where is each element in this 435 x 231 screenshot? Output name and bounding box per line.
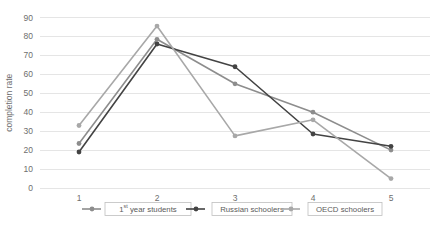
x-axis-tick-label: 4 — [311, 193, 316, 203]
data-point-marker — [155, 42, 160, 47]
series-line — [79, 26, 391, 179]
y-axis-tick-label: 10 — [24, 164, 34, 174]
x-axis-tick-label: 3 — [233, 193, 238, 203]
series-3 — [77, 24, 394, 181]
data-point-marker — [311, 117, 316, 122]
y-axis-ticks: 9080706050403020100 — [24, 13, 34, 194]
data-point-marker — [77, 150, 82, 155]
x-axis-tick-label: 1 — [77, 193, 82, 203]
y-axis-tick-label: 20 — [24, 145, 34, 155]
y-axis-title: completion rate — [4, 73, 14, 131]
y-axis-title-text: completion rate — [4, 73, 14, 131]
y-axis-tick-label: 0 — [28, 183, 33, 193]
x-axis-ticks: 12345 — [77, 193, 394, 203]
y-axis-tick-label: 80 — [24, 31, 34, 41]
legend-label-text: Russian schoolers — [220, 205, 284, 214]
data-point-marker — [155, 37, 160, 42]
data-point-marker — [389, 144, 394, 149]
chart-canvas: 9080706050403020100 12345 completion rat… — [0, 0, 435, 231]
gridlines — [40, 18, 430, 189]
legend-marker-icon — [289, 207, 294, 212]
y-axis-tick-label: 30 — [24, 126, 34, 136]
data-point-marker — [311, 110, 316, 115]
data-point-marker — [233, 64, 238, 69]
data-point-marker — [77, 141, 82, 146]
y-axis-tick-label: 40 — [24, 107, 34, 117]
legend-item-1[interactable]: 1st year students — [82, 203, 191, 216]
legend-item-3[interactable]: OECD schoolers — [281, 203, 382, 216]
y-axis-tick-label: 50 — [24, 88, 34, 98]
chart-legend: 1st year studentsRussian schoolersOECD s… — [82, 203, 382, 216]
data-point-marker — [389, 176, 394, 181]
data-point-marker — [233, 134, 238, 139]
legend-label-text: OECD schoolers — [316, 205, 374, 214]
data-point-marker — [233, 81, 238, 86]
data-point-marker — [77, 123, 82, 128]
line-chart: 9080706050403020100 12345 completion rat… — [0, 0, 435, 231]
y-axis-tick-label: 70 — [24, 50, 34, 60]
x-axis-tick-label: 5 — [389, 193, 394, 203]
data-point-marker — [311, 132, 316, 137]
y-axis-tick-label: 90 — [24, 13, 34, 23]
x-axis-tick-label: 2 — [155, 193, 160, 203]
series-lines — [77, 24, 394, 181]
legend-marker-icon — [194, 207, 199, 212]
legend-item-2[interactable]: Russian schoolers — [186, 203, 292, 216]
data-point-marker — [155, 24, 160, 29]
series-line — [79, 39, 391, 150]
y-axis-tick-label: 60 — [24, 69, 34, 79]
legend-marker-icon — [90, 207, 95, 212]
legend-label-text: 1st year students — [119, 203, 177, 214]
